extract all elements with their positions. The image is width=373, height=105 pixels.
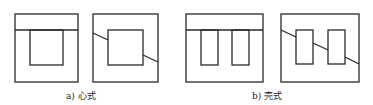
caption-shell-type: b) 壳式 — [252, 89, 282, 102]
shell-type-joint-view — [281, 14, 359, 82]
caption-core-type: a) 心式 — [66, 89, 96, 102]
shell-type-core-view — [186, 14, 263, 82]
transformer-core-diagram: a) 心式 b) 壳式 — [0, 0, 373, 105]
diagram-canvas — [0, 0, 373, 105]
core-type-core-view — [15, 14, 78, 82]
core-type-joint-view — [93, 14, 158, 82]
